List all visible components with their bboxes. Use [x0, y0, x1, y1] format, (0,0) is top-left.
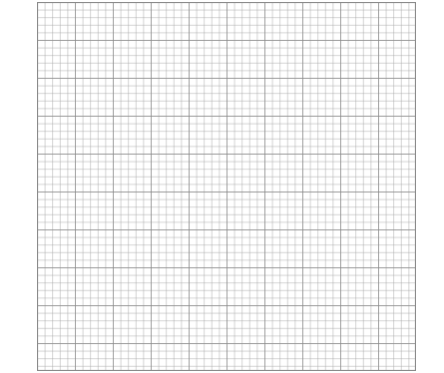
graph-paper-grid: [37, 2, 416, 371]
grid-lines: [37, 2, 416, 371]
